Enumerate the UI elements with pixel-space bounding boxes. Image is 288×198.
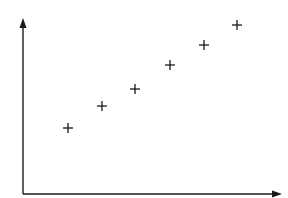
scatter-chart <box>0 0 288 198</box>
data-points <box>63 20 242 133</box>
x-axis <box>23 191 282 198</box>
plus-marker-icon <box>97 101 107 111</box>
plus-marker-icon <box>63 123 73 133</box>
plus-marker-icon <box>199 40 209 50</box>
y-axis-arrow-icon <box>20 18 27 28</box>
plus-marker-icon <box>232 20 242 30</box>
plus-marker-icon <box>165 60 175 70</box>
plus-marker-icon <box>130 84 140 94</box>
x-axis-arrow-icon <box>272 191 282 198</box>
y-axis <box>20 18 27 194</box>
